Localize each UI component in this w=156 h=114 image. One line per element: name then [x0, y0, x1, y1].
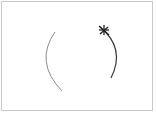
diagram-canvas — [0, 0, 156, 114]
left-arc — [46, 32, 62, 91]
starburst-marker-icon — [99, 25, 109, 35]
